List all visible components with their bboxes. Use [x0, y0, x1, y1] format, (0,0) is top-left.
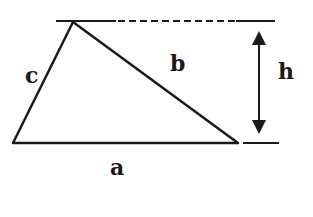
arrow-up-icon	[252, 31, 266, 45]
label-h: h	[278, 60, 294, 82]
label-b: b	[170, 52, 185, 74]
label-c: c	[25, 64, 38, 86]
arrow-down-icon	[252, 120, 266, 134]
side-c	[13, 22, 73, 143]
triangle-diagram: c b h a	[0, 0, 313, 217]
label-a: a	[110, 156, 124, 178]
diagram-drawing	[0, 0, 313, 217]
side-b	[73, 22, 238, 143]
